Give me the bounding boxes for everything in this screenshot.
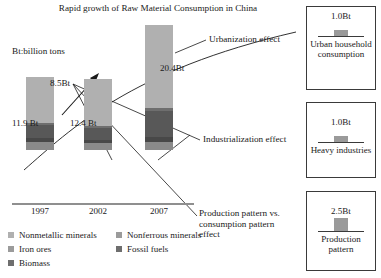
legend-label: Iron ores [19, 244, 51, 254]
callout-label: Heavy industries [307, 145, 375, 160]
legend-item[interactable]: Nonmetallic minerals [8, 228, 97, 242]
callout-rule [318, 231, 364, 232]
segment-biomass [145, 142, 173, 150]
callout-rule [318, 36, 364, 37]
legend-label: Nonmetallic minerals [19, 230, 97, 240]
legend-label: Biomass [19, 258, 50, 268]
bar-2007[interactable] [145, 25, 173, 150]
callout-bar-wrap [307, 217, 375, 231]
legend-swatch-icon [8, 260, 14, 266]
legend-label: Nonferrous minerals [127, 230, 201, 240]
legend-swatch-icon [8, 246, 14, 252]
callout-box-urban-household[interactable]: 1.0Bt Urban household consumption [306, 6, 376, 90]
legend-label: Fossil fuels [127, 244, 168, 254]
segment-iron-ores [84, 128, 112, 140]
callout-value: 1.0Bt [307, 11, 375, 22]
annotation-production-consumption: Production pattern vs. consumption patte… [199, 208, 297, 240]
plot-area: 11.9 Bt 1997 12.4 Bt 2002 20.4Bt [0, 0, 300, 225]
legend-item[interactable]: Nonferrous minerals [116, 228, 201, 242]
callout-value: 1.0Bt [307, 117, 375, 128]
figure-root: Rapid growth of Raw Material Consumption… [0, 0, 381, 278]
callout-bar-wrap [307, 22, 375, 36]
legend-column-2: Nonferrous minerals Fossil fuels [116, 228, 201, 256]
x-tick-1997: 1997 [20, 206, 60, 216]
bar-value-label-2007: 20.4Bt [160, 63, 184, 73]
legend-item[interactable]: Fossil fuels [116, 242, 201, 256]
side-callout-boxes: 1.0Bt Urban household consumption 1.0Bt … [300, 0, 381, 278]
callout-bar-icon [334, 218, 348, 231]
legend-item[interactable]: Iron ores [8, 242, 97, 256]
legend-swatch-icon [116, 246, 122, 252]
callout-bar-wrap [307, 128, 375, 142]
callout-value: 2.5Bt [307, 206, 375, 217]
legend-column-1: Nonmetallic minerals Iron ores Biomass [8, 228, 97, 270]
segment-biomass [26, 142, 54, 150]
legend-item[interactable]: Biomass [8, 256, 97, 270]
x-axis-line [12, 203, 194, 205]
callout-bar-icon [334, 30, 348, 36]
segment-biomass [84, 143, 112, 150]
bar-2002[interactable] [84, 79, 112, 150]
callout-box-heavy-industries[interactable]: 1.0Bt Heavy industries [306, 102, 376, 178]
legend-swatch-icon [8, 232, 14, 238]
x-tick-2007: 2007 [139, 206, 179, 216]
trend-value-label: 8.5Bt [50, 78, 70, 89]
callout-bar-icon [334, 136, 348, 142]
x-tick-2002: 2002 [78, 206, 118, 216]
callout-label: Production pattern [307, 234, 375, 259]
callout-rule [318, 142, 364, 143]
bar-value-label-2002: 12.4 Bt [70, 118, 97, 128]
annotation-industrialization: Industrialization effect [203, 134, 286, 145]
callout-box-production-pattern[interactable]: 2.5Bt Production pattern [306, 191, 376, 271]
callout-label: Urban household consumption [307, 39, 375, 64]
bar-value-label-1997: 11.9 Bt [12, 118, 38, 128]
annotation-urbanization: Urbanization effect [209, 34, 280, 45]
legend-swatch-icon [116, 232, 122, 238]
segment-iron-ores [145, 111, 173, 137]
